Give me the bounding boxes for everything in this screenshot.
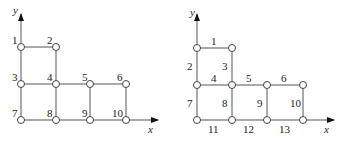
node — [264, 82, 271, 89]
node — [194, 45, 201, 52]
node-label: 3 — [12, 71, 18, 83]
node-label: 4 — [47, 71, 53, 83]
node — [229, 117, 236, 124]
node — [87, 117, 94, 124]
edge-label: 12 — [243, 123, 254, 135]
node — [53, 44, 60, 51]
x-axis-label: x — [147, 123, 153, 135]
node — [300, 117, 307, 124]
node — [123, 117, 130, 124]
edges — [21, 47, 126, 120]
edge-label: 2 — [187, 60, 193, 72]
edge-label: 9 — [257, 97, 263, 109]
node — [87, 81, 94, 88]
node-label: 7 — [12, 107, 18, 119]
node — [123, 81, 130, 88]
node — [300, 82, 307, 89]
edge-label: 4 — [211, 72, 217, 84]
node-label: 10 — [112, 107, 124, 119]
edge-label: 6 — [281, 72, 287, 84]
node-label: 9 — [82, 107, 88, 119]
node — [18, 81, 25, 88]
node — [194, 117, 201, 124]
node — [53, 81, 60, 88]
node — [229, 82, 236, 89]
x-axis-label: x — [323, 123, 329, 135]
y-axis-label: y — [189, 6, 195, 18]
node-label: 2 — [47, 34, 53, 46]
edge-label: 13 — [279, 123, 291, 135]
node-label: 8 — [47, 107, 53, 119]
edge-label: 1 — [211, 35, 217, 47]
node — [53, 117, 60, 124]
nodes — [194, 45, 307, 124]
node-label: 5 — [82, 71, 88, 83]
edge-label: 11 — [208, 123, 219, 135]
right-diagram: y x 1 2 3 4 5 6 — [187, 6, 334, 135]
edge-label: 7 — [187, 97, 193, 109]
node — [194, 82, 201, 89]
edge-label: 8 — [222, 97, 228, 109]
node — [264, 117, 271, 124]
y-axis-label: y — [12, 4, 18, 16]
node — [229, 45, 236, 52]
edge-label: 3 — [222, 60, 228, 72]
left-diagram: y x 1 2 3 4 5 6 — [12, 4, 158, 135]
node — [18, 44, 25, 51]
edge-label: 10 — [290, 97, 302, 109]
node — [18, 117, 25, 124]
node-label: 6 — [117, 71, 123, 83]
edges — [197, 48, 303, 120]
edge-label: 5 — [246, 72, 252, 84]
node-label: 1 — [12, 34, 18, 46]
figure-canvas: y x 1 2 3 4 5 6 — [0, 0, 343, 143]
